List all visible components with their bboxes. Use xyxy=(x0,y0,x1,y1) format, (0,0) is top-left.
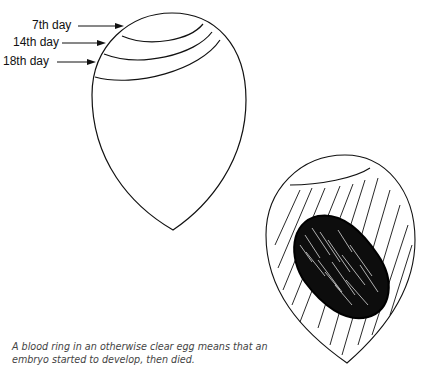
label-14th-day: 14th day xyxy=(13,35,59,49)
arrow-head-18th xyxy=(87,59,96,65)
egg-blood-ring xyxy=(266,155,415,363)
egg-diagram xyxy=(0,0,427,384)
arrow-head-7th xyxy=(115,23,124,29)
blood-ring-blob xyxy=(294,215,389,318)
air-cell-line-18th-day xyxy=(95,40,220,80)
air-cell-line-14th-day xyxy=(104,32,212,60)
air-cell-line-7th-day xyxy=(122,24,203,42)
egg-air-cell-stages xyxy=(57,13,246,230)
caption-line-1: A blood ring in an otherwise clear egg m… xyxy=(12,340,312,353)
figure-caption: A blood ring in an otherwise clear egg m… xyxy=(12,340,312,366)
arrow-head-14th xyxy=(97,40,106,46)
egg-1-outline xyxy=(92,13,246,230)
label-18th-day: 18th day xyxy=(3,54,49,68)
egg-2-air-cell xyxy=(290,168,370,185)
caption-line-2: embryo started to develop, then died. xyxy=(12,353,312,366)
label-7th-day: 7th day xyxy=(32,18,71,32)
